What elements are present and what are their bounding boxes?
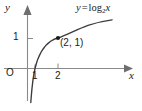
equation-lhs: y xyxy=(76,2,81,13)
equation-argument: x xyxy=(106,2,111,13)
x-axis-label: x xyxy=(129,70,134,81)
log-curve xyxy=(31,20,112,103)
equation-operator: log xyxy=(89,2,102,13)
y-axis-arrowhead xyxy=(23,5,31,15)
x-tick-label-1: 1 xyxy=(32,71,38,81)
x-tick-label-2: 2 xyxy=(55,71,61,81)
equation-label: y=log2x xyxy=(76,3,110,15)
logarithm-graph-figure: y x O 1 1 2 (2, 1) y=log2x xyxy=(0,0,142,111)
point-coordinate-label: (2, 1) xyxy=(60,38,83,48)
equation-equals: = xyxy=(81,2,89,13)
origin-label: O xyxy=(6,68,14,78)
y-tick-label-1: 1 xyxy=(13,32,19,42)
y-axis-label: y xyxy=(5,2,10,13)
graph-canvas xyxy=(0,0,142,111)
